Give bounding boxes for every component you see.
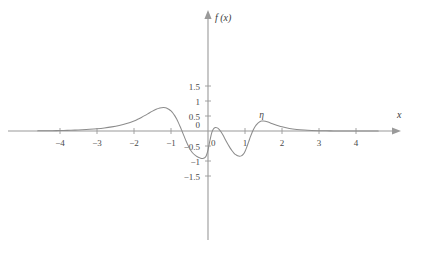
x-tick-label: 3	[317, 138, 322, 148]
x-axis-arrow-icon	[392, 127, 401, 134]
x-tick-label: −3	[92, 138, 102, 148]
function-plot: −4−3−2−101234 −1.5−1−0.50.511.50 η x f (…	[0, 0, 423, 259]
x-tick-label: 2	[280, 138, 285, 148]
y-tick-label: −0.5	[184, 142, 201, 152]
x-tick-label: 0	[211, 138, 216, 148]
y-tick-label: 1.5	[189, 82, 201, 92]
x-tick-label: 4	[354, 138, 359, 148]
x-axis-label: x	[396, 109, 402, 120]
x-tick-label-group: −4−3−2−101234	[55, 138, 359, 148]
eta-annotation-label: η	[259, 110, 264, 120]
y-axis-arrow-icon	[204, 10, 211, 19]
axes-group	[8, 10, 401, 240]
y-axis-label: f (x)	[215, 12, 232, 24]
annotation-group: η	[259, 110, 264, 120]
x-tick-label: −4	[55, 138, 65, 148]
y-tick-label: −1.5	[184, 172, 201, 182]
figure-container: −4−3−2−101234 −1.5−1−0.50.511.50 η x f (…	[0, 0, 423, 259]
y-tick-label: 1	[196, 97, 201, 107]
x-tick-label: −1	[166, 138, 176, 148]
x-tick-label: −2	[129, 138, 139, 148]
y-tick-label-zero: 0	[196, 120, 201, 130]
